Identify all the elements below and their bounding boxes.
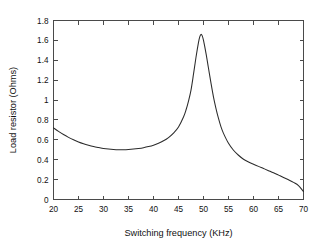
y-tick-label: 1.6	[37, 36, 49, 45]
x-tick-label: 45	[174, 205, 184, 214]
y-tick-label: 1	[44, 96, 49, 105]
x-tick-label: 30	[99, 205, 109, 214]
x-tick-label: 60	[249, 205, 259, 214]
y-tick-label: 0.4	[37, 156, 49, 165]
x-tick-label: 55	[224, 205, 234, 214]
y-tick-label: 0	[44, 196, 49, 205]
x-tick-label: 35	[124, 205, 134, 214]
chart-figure: 2025303540455055606570 00.20.40.60.811.2…	[0, 0, 328, 248]
y-tick-label: 1.4	[37, 56, 49, 65]
x-tick-label: 65	[274, 205, 284, 214]
x-axis-title: Switching frequency (KHz)	[124, 228, 232, 238]
y-tick-label: 0.8	[37, 116, 49, 125]
x-tick-label: 50	[199, 205, 209, 214]
y-tick-label: 1.2	[37, 76, 49, 85]
x-tick-label: 40	[149, 205, 159, 214]
y-tick-label: 0.2	[37, 176, 49, 185]
x-tick-label: 70	[299, 205, 309, 214]
y-tick-label: 0.6	[37, 136, 49, 145]
y-tick-label: 1.8	[37, 17, 49, 26]
line-chart: 2025303540455055606570 00.20.40.60.811.2…	[0, 0, 328, 248]
x-tick-label: 25	[74, 205, 84, 214]
y-axis-title: Load resistor (Ohms)	[8, 67, 18, 153]
x-tick-label: 20	[49, 205, 59, 214]
